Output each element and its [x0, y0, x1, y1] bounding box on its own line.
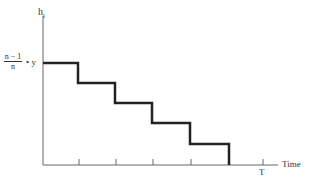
fraction-numerator: n − 1: [4, 52, 22, 62]
y-axis-label: hi: [38, 6, 45, 20]
step-series: [43, 63, 229, 165]
y-value-fraction: n − 1 n: [4, 52, 22, 71]
x-tick-label-T: T: [259, 167, 265, 177]
x-ticks: [79, 159, 263, 165]
fraction-denominator: n: [4, 62, 22, 71]
y-value-suffix: • y: [26, 57, 36, 67]
step-chart: [0, 0, 316, 183]
x-axis-label: Time: [282, 159, 301, 169]
